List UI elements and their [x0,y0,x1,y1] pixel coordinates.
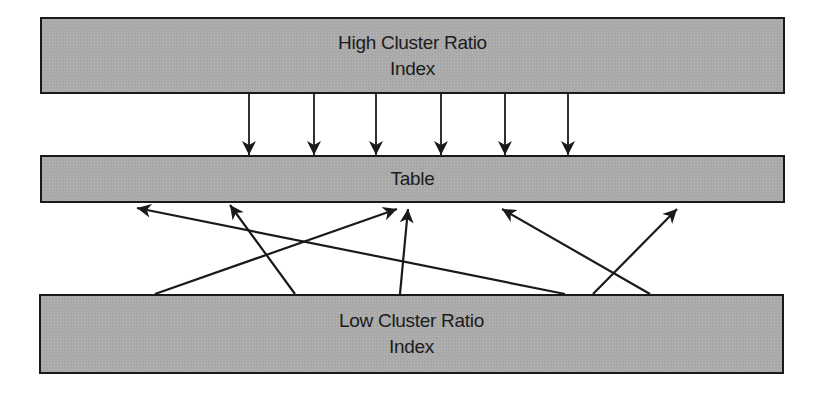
low-index-label-line2: Index [389,334,434,360]
up-arrow [502,209,650,294]
up-arrow [230,205,295,294]
up-arrow [400,209,408,294]
high-index-label-line2: Index [390,56,435,82]
up-arrows-group [137,205,677,294]
table-box: Table [40,155,785,203]
low-index-label-line1: Low Cluster Ratio [339,308,484,334]
table-label: Table [391,166,435,192]
up-arrow [137,208,565,294]
up-arrow [155,209,397,294]
up-arrow [593,209,677,294]
down-arrows-group [249,94,568,155]
low-cluster-ratio-index-box: Low Cluster Ratio Index [39,294,784,374]
high-cluster-ratio-index-box: High Cluster Ratio Index [40,17,785,94]
high-index-label-line1: High Cluster Ratio [338,30,487,56]
